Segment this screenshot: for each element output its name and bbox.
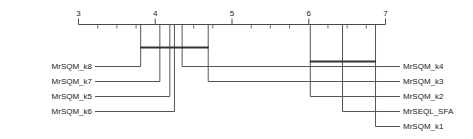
method-label-MrSQM_k1: MrSQM_k1 (403, 122, 444, 131)
method-label-MrSEQL_SFA: MrSEQL_SFA (403, 107, 454, 116)
connector-group (95, 25, 400, 127)
rank-connector-MrSQM_k7 (95, 25, 160, 82)
method-label-MrSQM_k4: MrSQM_k4 (403, 62, 444, 71)
clique-group (140, 48, 376, 62)
rank-connector-MrSQM_k4 (182, 25, 400, 67)
axis-tick-label-7: 7 (383, 9, 388, 18)
method-label-MrSQM_k7: MrSQM_k7 (52, 77, 93, 86)
method-label-MrSQM_k2: MrSQM_k2 (403, 92, 444, 101)
rank-connector-MrSQM_k6 (95, 25, 174, 112)
critical-difference-diagram: 34567 MrSQM_k8MrSQM_k7MrSQM_k5MrSQM_k6Mr… (0, 0, 473, 139)
axis-group (79, 19, 386, 29)
method-label-MrSQM_k6: MrSQM_k6 (52, 107, 93, 116)
rank-connector-MrSQM_k5 (95, 25, 170, 97)
tick-label-group: 34567 (76, 9, 388, 18)
rank-connector-MrSQM_k8 (95, 25, 141, 67)
axis-tick-label-6: 6 (307, 9, 312, 18)
method-label-MrSQM_k8: MrSQM_k8 (52, 62, 93, 71)
method-label-MrSQM_k3: MrSQM_k3 (403, 77, 444, 86)
rank-connector-MrSEQL_SFA (343, 25, 400, 112)
axis-tick-label-5: 5 (230, 9, 235, 18)
cd-plot-area: 34567 MrSQM_k8MrSQM_k7MrSQM_k5MrSQM_k6Mr… (0, 0, 473, 139)
rank-connector-MrSQM_k3 (208, 25, 400, 82)
axis-tick-label-3: 3 (76, 9, 81, 18)
method-label-MrSQM_k5: MrSQM_k5 (52, 92, 93, 101)
axis-tick-label-4: 4 (153, 9, 158, 18)
